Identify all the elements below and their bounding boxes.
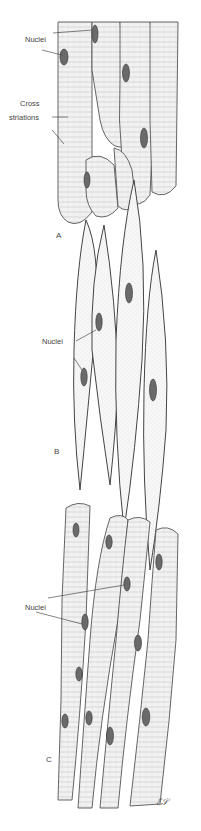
nucleus xyxy=(142,708,150,726)
nucleus xyxy=(107,727,114,745)
artist-signature: ℰ𝒮 xyxy=(156,797,171,807)
nucleus xyxy=(84,172,90,188)
label-nuclei-a: Nuclei xyxy=(25,35,46,44)
panel-c-cardiac-muscle: Nuclei C xyxy=(25,503,178,808)
label-nuclei-b: Nuclei xyxy=(42,337,63,346)
nucleus xyxy=(141,128,148,148)
nucleus xyxy=(81,368,87,386)
nucleus xyxy=(96,313,102,331)
panel-a-skeletal-muscle: Nuclei Cross striations A xyxy=(9,22,178,240)
nucleus xyxy=(62,714,68,728)
nucleus xyxy=(124,577,130,591)
label-nuclei-c: Nuclei xyxy=(25,603,46,612)
nucleus xyxy=(156,554,162,570)
nucleus xyxy=(150,379,157,401)
nucleus xyxy=(76,667,82,681)
nucleus xyxy=(123,64,130,82)
skeletal-fiber xyxy=(150,22,178,195)
nucleus xyxy=(86,711,92,725)
panel-label-b: B xyxy=(54,447,59,456)
nucleus xyxy=(60,49,68,65)
skeletal-fiber xyxy=(86,156,118,217)
panel-label-c: C xyxy=(46,755,52,764)
nucleus xyxy=(73,523,79,537)
nucleus xyxy=(82,614,88,630)
muscle-tissue-illustration: Nuclei Cross striations A Nuclei B xyxy=(0,0,201,831)
nucleus xyxy=(106,535,112,549)
smooth-fiber xyxy=(116,180,144,530)
label-striations: striations xyxy=(9,113,39,122)
nucleus xyxy=(135,635,142,651)
nucleus xyxy=(92,25,98,43)
label-cross: Cross xyxy=(20,99,40,108)
nucleus xyxy=(126,283,133,303)
panel-label-a: A xyxy=(56,231,62,240)
